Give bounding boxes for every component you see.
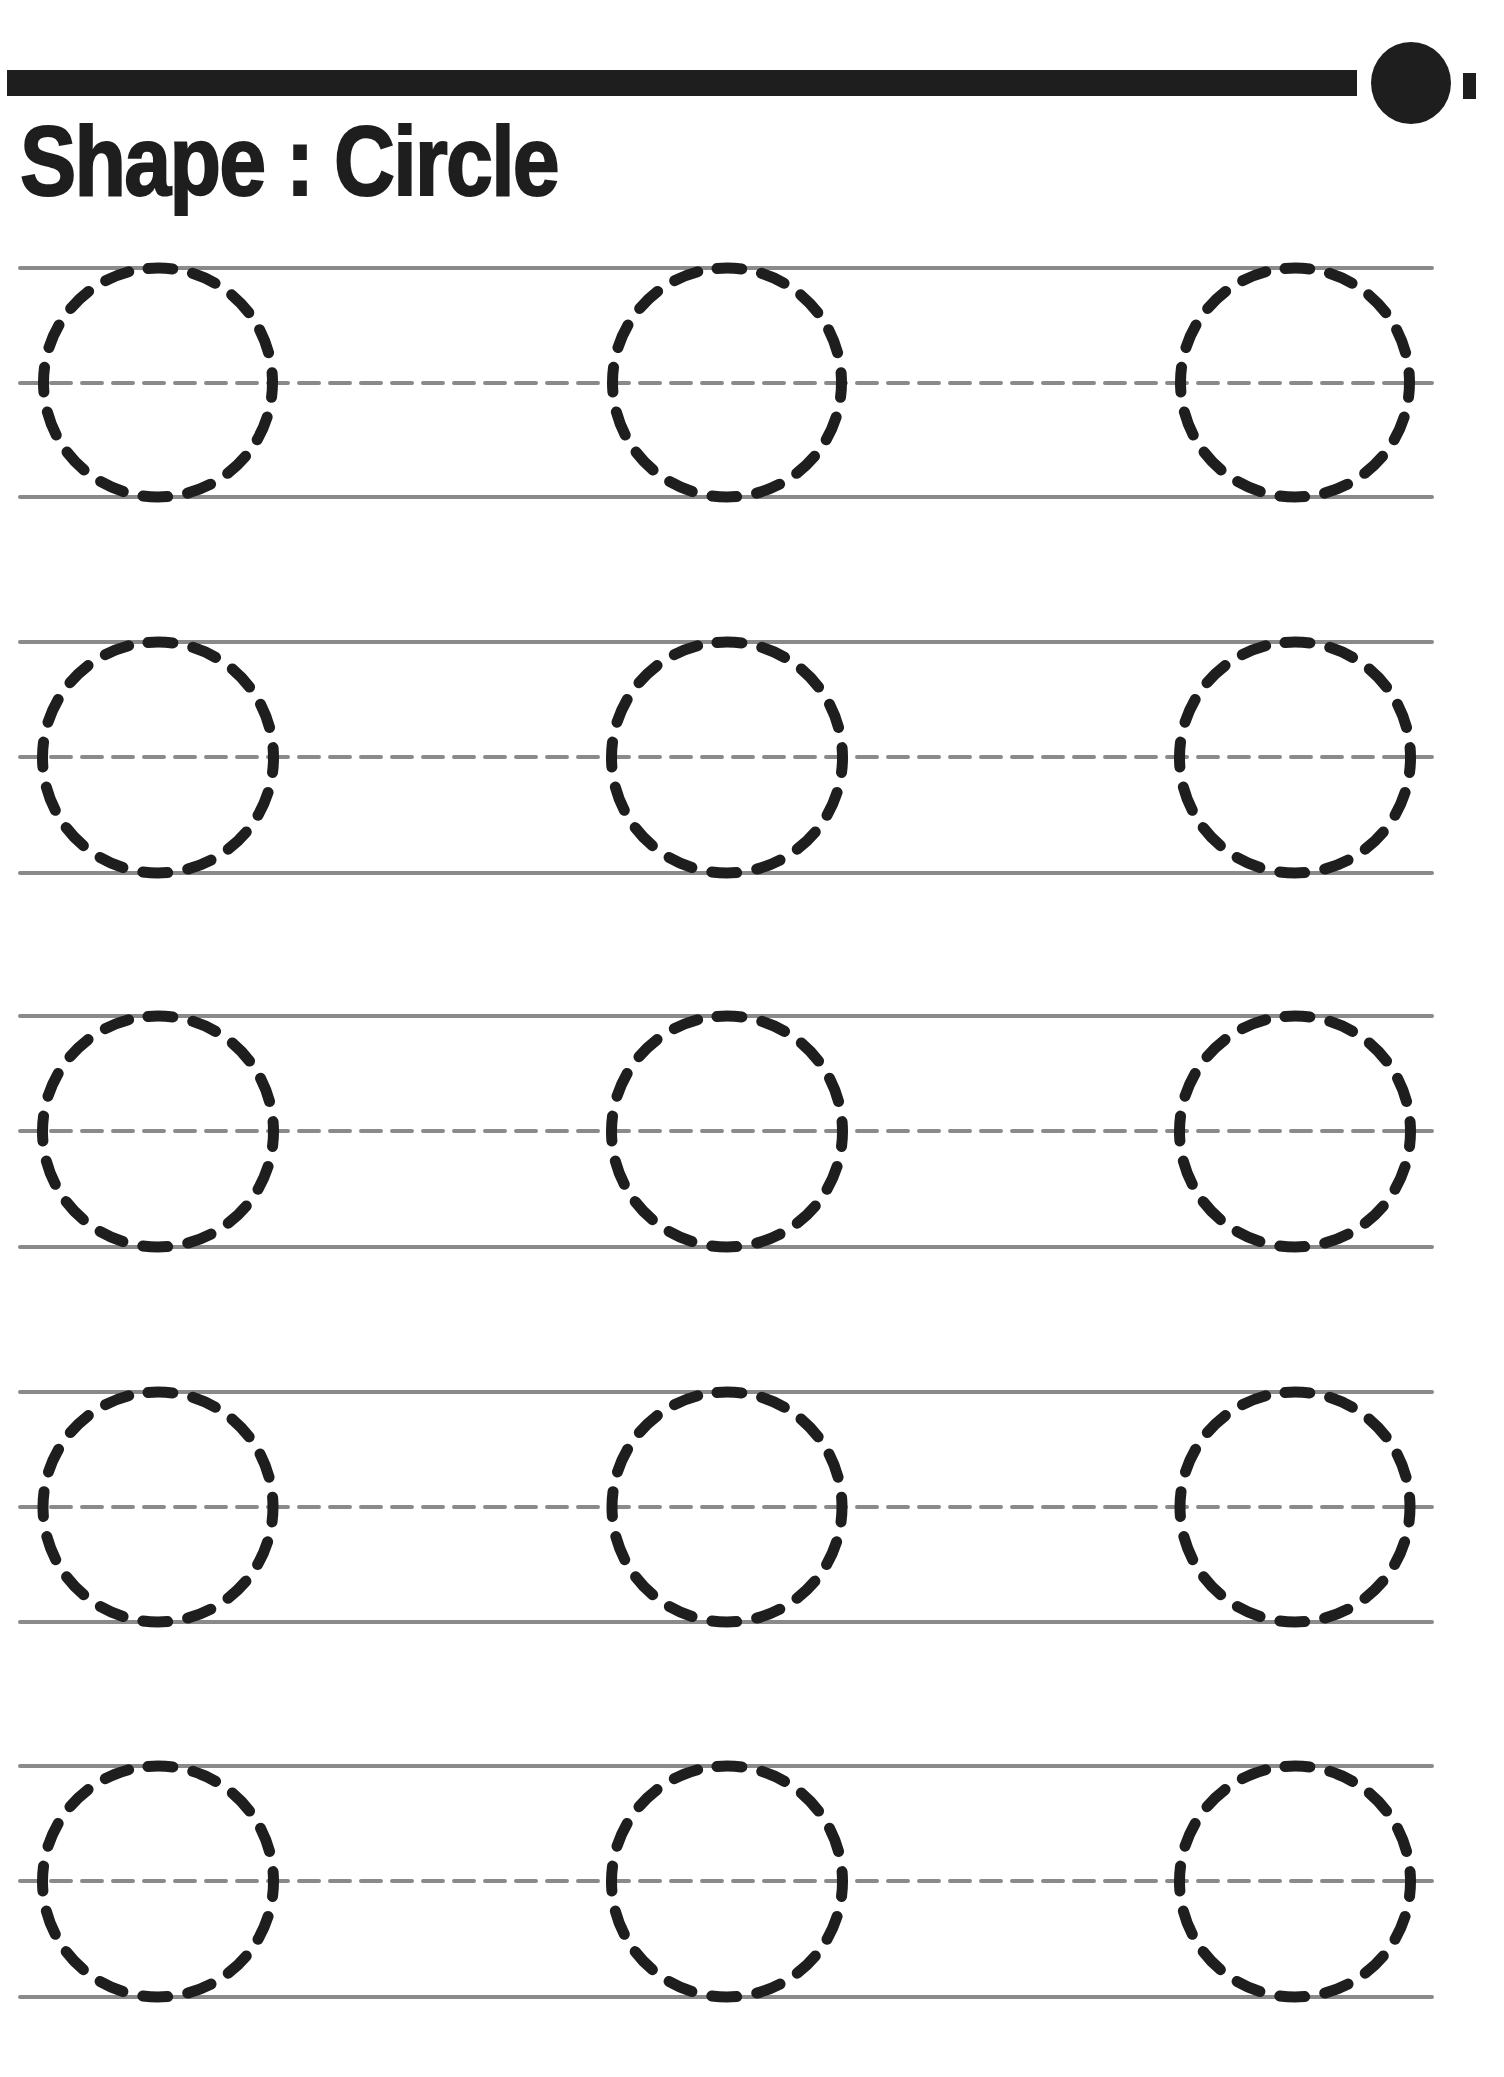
tracing-area xyxy=(0,0,1504,2077)
tracing-row xyxy=(20,1382,1432,1631)
tracing-row xyxy=(20,1756,1432,2006)
tracing-grid xyxy=(0,0,1504,2077)
tracing-row xyxy=(20,632,1432,882)
tracing-row xyxy=(20,258,1432,506)
tracing-row xyxy=(20,1006,1432,1256)
